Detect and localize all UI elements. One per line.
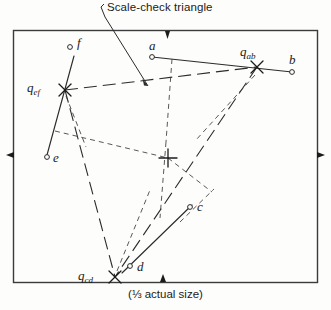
point-marker-f — [68, 45, 73, 50]
border-tick-bottom — [160, 274, 166, 282]
diagram-border — [14, 31, 318, 283]
point-marker-q-cd — [109, 271, 121, 283]
point-marker-intersection — [159, 149, 177, 167]
point-marker-e — [45, 155, 50, 160]
diagram-canvas: f a b e c d qab qef qcd — [0, 0, 331, 310]
label-e: e — [53, 150, 59, 165]
callout-leader-line — [101, 4, 148, 86]
label-q-cd: qcd — [78, 268, 93, 285]
label-c: c — [197, 199, 203, 214]
line-a-b — [152, 57, 292, 72]
point-marker-b — [290, 70, 295, 75]
point-marker-q-ab — [251, 61, 263, 73]
triangle-side-ef-ab — [65, 67, 257, 90]
point-labels: f a b e c d qab qef qcd — [27, 35, 296, 285]
label-b: b — [289, 52, 296, 67]
figure-container: f a b e c d qab qef qcd Scale-check tria… — [0, 0, 331, 310]
construction-line-ef-int — [55, 131, 168, 158]
construction-line-vertical-lower — [160, 142, 166, 218]
point-marker-d — [128, 264, 133, 269]
construction-line-vertical — [166, 59, 172, 142]
label-d: d — [137, 259, 144, 274]
callout-label: Scale-check triangle — [107, 1, 213, 13]
border-tick-left — [6, 152, 14, 158]
figure-caption: (⅓ actual size) — [0, 288, 331, 300]
border-tick-right — [317, 152, 325, 158]
border-tick-top — [165, 31, 170, 39]
label-q-ef: qef — [27, 80, 41, 97]
label-q-ab: qab — [240, 44, 256, 61]
point-markers — [45, 45, 295, 283]
construction-line-ab-down — [196, 75, 255, 140]
construction-line-int-c — [168, 158, 212, 192]
label-a: a — [149, 38, 156, 53]
triangle-side-ef-cd — [65, 90, 115, 277]
construction-stub-ef — [66, 96, 86, 147]
point-marker-c — [188, 205, 193, 210]
construction-stub-cd — [117, 190, 150, 271]
label-f: f — [77, 35, 83, 50]
point-marker-a — [150, 55, 155, 60]
scale-check-triangle — [65, 67, 257, 277]
